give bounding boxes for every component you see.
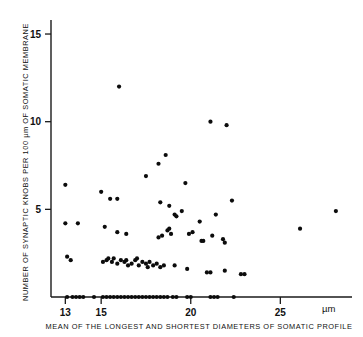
x-axis-unit-label: µm xyxy=(322,303,335,314)
data-point xyxy=(239,272,243,276)
data-point xyxy=(223,269,227,273)
data-point xyxy=(223,241,227,245)
data-point xyxy=(185,295,189,299)
plot-canvas: 51015 13152025 µm MEAN OF THE LONGEST AN… xyxy=(0,0,363,337)
data-point xyxy=(124,258,128,262)
data-point xyxy=(158,265,162,269)
data-point xyxy=(156,162,160,166)
data-point xyxy=(224,123,228,127)
data-point xyxy=(198,220,202,224)
x-axis-title: MEAN OF THE LONGEST AND SHORTEST DIAMETE… xyxy=(46,322,353,331)
data-point xyxy=(115,262,119,266)
data-point xyxy=(165,295,169,299)
data-point xyxy=(106,256,110,260)
data-point xyxy=(137,263,141,267)
data-point xyxy=(242,272,246,276)
data-point xyxy=(99,190,103,194)
data-point xyxy=(63,183,67,187)
data-point xyxy=(74,295,78,299)
data-point xyxy=(158,200,162,204)
data-point xyxy=(69,258,73,262)
data-point xyxy=(108,197,112,201)
data-point xyxy=(115,197,119,201)
data-point xyxy=(126,263,130,267)
data-point xyxy=(187,232,191,236)
data-point xyxy=(158,295,162,299)
data-point xyxy=(212,295,216,299)
data-point xyxy=(104,295,108,299)
data-point xyxy=(92,295,96,299)
data-point xyxy=(112,256,116,260)
data-point xyxy=(151,295,155,299)
data-point xyxy=(164,153,168,157)
data-point xyxy=(208,270,212,274)
data-point xyxy=(169,232,173,236)
data-point xyxy=(190,230,194,234)
data-point xyxy=(180,209,184,213)
data-point xyxy=(230,198,234,202)
data-point xyxy=(65,295,69,299)
data-point xyxy=(119,258,123,262)
data-point xyxy=(130,295,134,299)
data-point xyxy=(130,262,134,266)
data-point xyxy=(81,295,85,299)
data-point xyxy=(101,260,105,264)
data-point xyxy=(173,263,177,267)
scatter-plot-figure: 51015 13152025 µm MEAN OF THE LONGEST AN… xyxy=(0,0,363,337)
data-point xyxy=(137,295,141,299)
data-point xyxy=(108,295,112,299)
x-tick-label: 25 xyxy=(275,307,287,318)
data-point xyxy=(155,295,159,299)
axes-group xyxy=(51,20,352,297)
data-point xyxy=(208,295,212,299)
data-point xyxy=(208,120,212,124)
data-point xyxy=(189,295,193,299)
data-point xyxy=(232,295,236,299)
data-point xyxy=(174,214,178,218)
data-point xyxy=(144,295,148,299)
data-point xyxy=(147,295,151,299)
data-point xyxy=(167,227,171,231)
data-point xyxy=(122,295,126,299)
x-tick-label: 20 xyxy=(185,307,197,318)
data-point xyxy=(171,295,175,299)
x-axis-ticks: 13152025 xyxy=(60,297,287,318)
data-point xyxy=(210,234,214,238)
data-point xyxy=(119,295,123,299)
data-point xyxy=(115,295,119,299)
data-point xyxy=(214,213,218,217)
data-point xyxy=(133,295,137,299)
y-axis-title: NUMBER OF SYNAPTIC KNOBS PER 100 µm OF S… xyxy=(21,23,30,301)
data-point xyxy=(124,232,128,236)
data-point xyxy=(162,263,166,267)
data-point xyxy=(151,263,155,267)
data-point xyxy=(76,221,80,225)
data-point xyxy=(115,230,119,234)
data-point xyxy=(155,262,159,266)
y-tick-label: 10 xyxy=(30,116,42,127)
data-point xyxy=(140,295,144,299)
data-point xyxy=(334,209,338,213)
data-point xyxy=(70,295,74,299)
data-points-layer xyxy=(63,85,338,300)
data-point xyxy=(146,265,150,269)
data-point xyxy=(185,267,189,271)
y-tick-label: 5 xyxy=(35,204,41,215)
data-point xyxy=(156,235,160,239)
data-point xyxy=(135,256,139,260)
data-point xyxy=(160,234,164,238)
data-point xyxy=(140,260,144,264)
data-point xyxy=(205,270,209,274)
data-point xyxy=(65,255,69,259)
y-axis-ticks: 51015 xyxy=(30,29,51,215)
data-point xyxy=(216,295,220,299)
data-point xyxy=(78,295,82,299)
data-point xyxy=(144,174,148,178)
data-point xyxy=(103,225,107,229)
x-tick-label: 13 xyxy=(60,307,72,318)
data-point xyxy=(298,227,302,231)
data-point xyxy=(201,239,205,243)
data-point xyxy=(117,85,121,89)
data-point xyxy=(112,295,116,299)
data-point xyxy=(174,295,178,299)
